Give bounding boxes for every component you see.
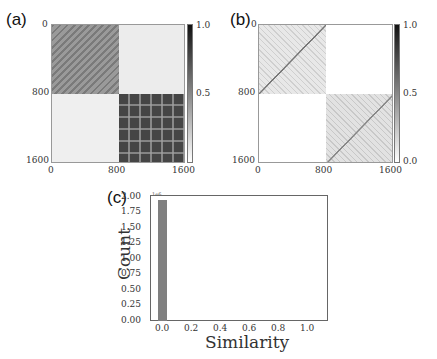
panel-a-xtick-0: 0 [48, 165, 54, 175]
panel-c-ytick-0: 2.00 [121, 191, 141, 201]
panel-a-cbar-tick-1: 0.5 [196, 88, 210, 98]
panel-a-label: (a) [6, 10, 27, 30]
panel-a-colorbar [187, 24, 193, 163]
panel-c-xtick-5: 1.0 [300, 323, 314, 333]
panel-c-ytick-2: 1.50 [121, 222, 141, 232]
panel-c-xtick-1: 0.2 [184, 323, 198, 333]
panel-b-xtick-1: 800 [315, 165, 332, 175]
panel-b-cbar-tick-0: 1.0 [403, 20, 417, 30]
panel-b-heatmap [258, 24, 393, 163]
panel-c-xlabel: Similarity [205, 332, 289, 352]
panel-b-ytick-2: 1600 [232, 155, 255, 165]
panel-b-label: (b) [230, 10, 251, 30]
panel-c-ytick-6: 0.50 [121, 284, 141, 294]
histogram-bar [158, 200, 167, 321]
block-top-left [52, 25, 119, 94]
panel-a-xtick-1: 800 [108, 165, 125, 175]
panel-a-ytick-0: 0 [42, 19, 48, 29]
panel-b-colorbar [394, 24, 400, 163]
panel-b-cbar-tick-2: 0.0 [403, 156, 417, 166]
panel-b-cbar-tick-1: 0.5 [403, 88, 417, 98]
panel-b-ytick-0: 0 [251, 19, 257, 29]
diagonal-line-bottom [326, 94, 393, 163]
panel-a-heatmap [51, 24, 185, 163]
panel-b-ytick-1: 800 [238, 87, 255, 97]
panel-c-ytick-1: 1.75 [121, 206, 141, 216]
block-top-right [119, 25, 185, 94]
block-bottom-left [52, 94, 119, 163]
panel-a-ytick-2: 1600 [26, 155, 49, 165]
block-bottom-left [259, 94, 326, 163]
panel-c-ytick-7: 0.25 [121, 299, 141, 309]
panel-a-xtick-2: 1600 [172, 165, 195, 175]
panel-c-ytick-8: 0.00 [121, 315, 141, 325]
diagonal-line-top [259, 25, 326, 94]
panel-c-xtick-0: 0.0 [155, 323, 169, 333]
panel-c-ytick-5: 0.75 [121, 268, 141, 278]
panel-a-cbar-tick-0: 1.0 [196, 20, 210, 30]
panel-c-axes [150, 195, 328, 321]
panel-c-ytick-3: 1.25 [121, 237, 141, 247]
block-bottom-right-grid [119, 94, 185, 163]
panel-b-xtick-2: 1600 [379, 165, 402, 175]
block-top-right [326, 25, 393, 94]
panel-b-xtick-0: 0 [255, 165, 261, 175]
panel-c-ytick-4: 1.00 [121, 253, 141, 263]
panel-a-ytick-1: 800 [32, 87, 49, 97]
